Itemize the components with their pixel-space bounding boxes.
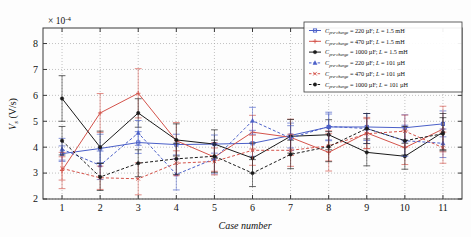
x-tick-label: 9: [364, 202, 369, 213]
y-tick-label: 4: [33, 142, 38, 153]
x-tick-label: 11: [438, 202, 448, 213]
x-tick-label: 2: [98, 202, 103, 213]
chart-svg: 23456781234567891011 × 10-4 Vs (V/s) Cas…: [0, 0, 471, 237]
y-tick-label: 5: [33, 116, 38, 127]
y-tick-label: 2: [33, 193, 38, 204]
x-tick-label: 4: [174, 202, 179, 213]
figure-container: 23456781234567891011 × 10-4 Vs (V/s) Cas…: [0, 0, 471, 237]
x-tick-label: 7: [288, 202, 293, 213]
x-tick-label: 5: [212, 202, 217, 213]
x-axis-label: Case number: [218, 220, 271, 231]
x-tick-label: 8: [326, 202, 331, 213]
y-tick-label: 6: [33, 90, 38, 101]
y-tick-label: 3: [33, 167, 38, 178]
x-tick-label: 6: [250, 202, 255, 213]
x-tick-label: 10: [400, 202, 410, 213]
y-tick-label: 7: [33, 64, 38, 75]
y-tick-label: 8: [33, 38, 38, 49]
x-tick-label: 1: [60, 202, 65, 213]
x-tick-label: 3: [136, 202, 141, 213]
chart-legend: Cpre-charge = 220 µF; L = 1.5 mHCpre-cha…: [304, 22, 462, 92]
